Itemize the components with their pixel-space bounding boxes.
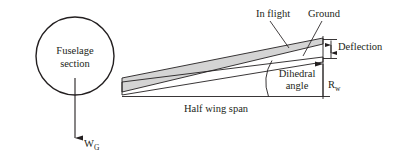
rw-subscript: w [335,84,341,93]
wg-subscript: G [94,143,100,152]
wing-dihedral-diagram: Fuselage section In flight Ground Deflec… [0,0,393,161]
dihedral-label-line1: Dihedral [279,68,316,79]
half-wing-span-label: Half wing span [184,103,249,114]
ground-label: Ground [308,8,341,19]
diagram-canvas: Fuselage section In flight Ground Deflec… [0,0,393,161]
fuselage-label-line2: section [60,58,90,69]
rw-symbol: R [328,79,335,90]
dihedral-label-line2: angle [286,80,309,91]
rw-label: Rw [328,79,341,93]
fuselage-label-line1: Fuselage [56,45,94,56]
in-flight-leader-line [270,21,289,48]
deflection-label: Deflection [338,41,383,52]
in-flight-label: In flight [256,8,290,19]
wg-symbol: W [84,138,94,149]
wg-label: WG [84,138,100,152]
